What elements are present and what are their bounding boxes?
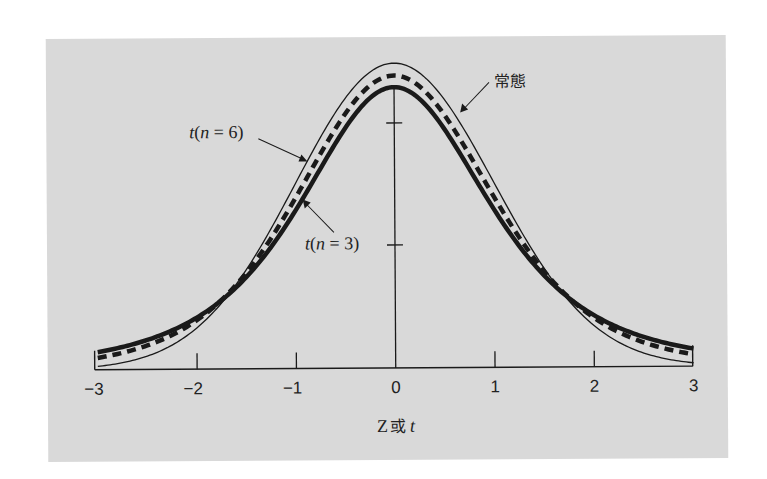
x-axis-line <box>95 366 693 370</box>
t3-arrow-line <box>307 204 334 232</box>
x-tick-label: −2 <box>183 379 203 398</box>
x-tick-label: 2 <box>590 377 600 396</box>
x-tick-label: −1 <box>283 379 303 398</box>
x-axis-title: Z或t <box>377 416 416 436</box>
t6-label: t(n = 6) <box>189 122 243 143</box>
x-tick-labels: −3−2−10123 <box>84 376 698 399</box>
t6-arrow-line <box>258 139 301 159</box>
x-tick-label: 1 <box>490 377 500 396</box>
t-vs-normal-chart: −3−2−10123 Z或t 常態 t(n = 6) t(n = 3) <box>46 35 729 462</box>
t3-label: t(n = 3) <box>305 233 359 254</box>
normal-arrow-line <box>464 82 489 108</box>
x-tick-label: 0 <box>391 378 401 397</box>
x-tick-label: 3 <box>689 376 699 395</box>
normal-label: 常態 <box>494 72 526 91</box>
chart-panel: −3−2−10123 Z或t 常態 t(n = 6) t(n = 3) <box>46 35 729 462</box>
x-tick-label: −3 <box>84 380 104 399</box>
y-axis-line <box>394 86 396 368</box>
